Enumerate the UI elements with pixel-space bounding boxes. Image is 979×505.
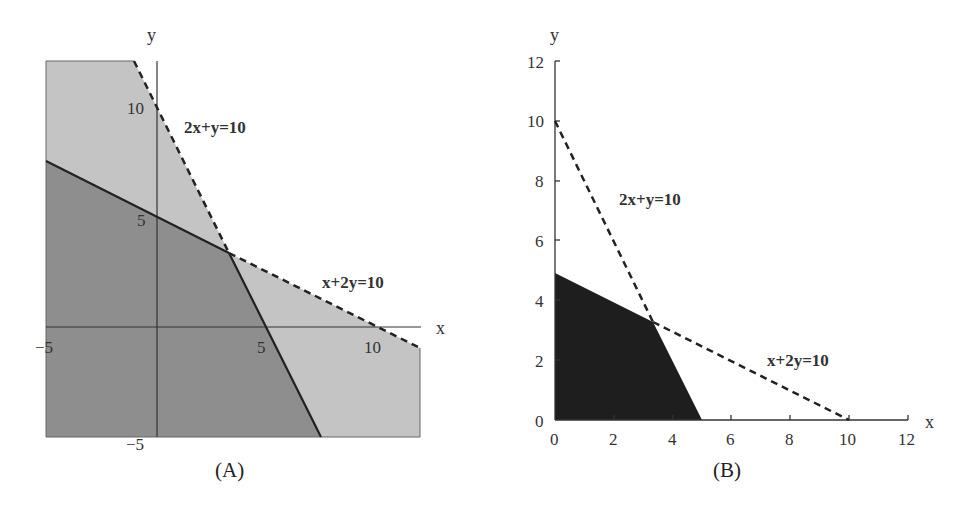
chart-b-tick-x-4: 4 — [668, 430, 677, 449]
chart-a-tick-y-5: 5 — [137, 211, 146, 230]
chart-b-eq-x2y: x+2y=10 — [767, 351, 829, 370]
chart-a-y-label: y — [147, 25, 156, 45]
chart-b-tick-y-6: 6 — [535, 232, 544, 251]
chart-b-tick-y-12: 12 — [527, 53, 544, 72]
chart-a-tick-x-neg5: −5 — [35, 338, 53, 357]
chart-a: 10 5 −5 5 10 −5 y x 2x+y=10 x+2y=10 (A) — [35, 25, 445, 482]
chart-a-tick-y-neg5: −5 — [126, 435, 144, 454]
chart-b-tick-x-12: 12 — [898, 430, 915, 449]
chart-b-caption: (B) — [713, 458, 741, 482]
figure: 10 5 −5 5 10 −5 y x 2x+y=10 x+2y=10 (A) — [0, 0, 979, 505]
chart-b-tick-y-2: 2 — [535, 352, 544, 371]
chart-a-eq-2xy: 2x+y=10 — [184, 118, 246, 137]
chart-b-feasible-region — [555, 273, 702, 420]
chart-b-tick-x-2: 2 — [609, 430, 618, 449]
chart-a-eq-x2y: x+2y=10 — [322, 273, 384, 292]
chart-b-tick-x-0: 0 — [550, 430, 559, 449]
chart-b-tick-y-4: 4 — [535, 292, 544, 311]
chart-b-tick-y-0: 0 — [535, 412, 544, 431]
chart-b-tick-x-10: 10 — [839, 430, 856, 449]
chart-b-tick-x-8: 8 — [785, 430, 794, 449]
chart-a-tick-x-10: 10 — [364, 338, 381, 357]
chart-b-x-label: x — [925, 412, 934, 432]
chart-b: 12 10 8 6 4 2 0 0 2 4 6 8 10 12 y x 2x+y… — [527, 25, 934, 482]
chart-a-tick-x-5: 5 — [257, 338, 266, 357]
chart-b-tick-y-8: 8 — [535, 172, 544, 191]
chart-b-y-label: y — [550, 25, 559, 45]
chart-b-eq-2xy: 2x+y=10 — [619, 190, 681, 209]
chart-a-x-label: x — [436, 318, 445, 338]
chart-a-caption: (A) — [215, 458, 244, 482]
chart-a-tick-y-10: 10 — [127, 99, 144, 118]
chart-b-tick-y-10: 10 — [527, 112, 544, 131]
chart-b-tick-x-6: 6 — [726, 430, 735, 449]
